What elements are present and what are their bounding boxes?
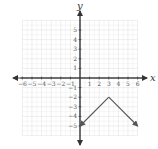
x-tick-label: 1: [88, 80, 92, 87]
x-axis-label: x: [150, 72, 156, 83]
y-tick-label: 2: [73, 55, 77, 62]
x-tick-label: 6: [136, 80, 140, 87]
y-tick-label: −1: [68, 84, 77, 91]
x-tick-label: 4: [116, 80, 120, 87]
x-tick-label: −2: [56, 80, 65, 87]
y-axis-label: y: [76, 0, 83, 11]
tick-labels: −6−5−4−3−2−112345654321−1−2−3−4−5: [18, 26, 140, 129]
x-tick-label: −3: [47, 80, 56, 87]
y-tick-label: 3: [73, 45, 77, 52]
y-tick-label: −4: [68, 112, 77, 119]
y-tick-label: −3: [68, 103, 77, 110]
x-tick-label: −6: [18, 80, 27, 87]
coordinate-graph: −6−5−4−3−2−112345654321−1−2−3−4−5 x y: [0, 0, 158, 149]
x-tick-label: 5: [126, 80, 130, 87]
x-tick-label: −4: [37, 80, 46, 87]
y-tick-label: 5: [73, 26, 77, 33]
y-tick-label: −5: [68, 122, 77, 129]
y-tick-label: 1: [73, 64, 77, 71]
y-tick-label: 4: [73, 36, 77, 43]
y-tick-label: −2: [68, 93, 77, 100]
x-tick-label: 3: [107, 80, 111, 87]
x-tick-label: 2: [97, 80, 101, 87]
x-tick-label: −5: [28, 80, 37, 87]
axes: [13, 11, 147, 145]
